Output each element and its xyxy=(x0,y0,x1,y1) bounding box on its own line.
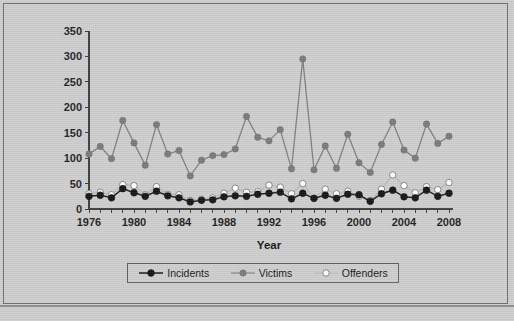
y-tick-label: 300 xyxy=(64,50,82,62)
y-tick-label: 350 xyxy=(64,25,82,37)
x-tick-label: 2000 xyxy=(347,216,371,228)
data-point-offenders xyxy=(266,182,272,188)
y-tick-label: 150 xyxy=(64,127,82,139)
x-tick-label: 1996 xyxy=(302,216,326,228)
data-point-victims xyxy=(412,155,418,161)
data-point-victims xyxy=(401,147,407,153)
legend-item-victims[interactable]: Victims xyxy=(230,267,293,279)
x-tick-label: 2004 xyxy=(392,216,417,228)
data-point-victims xyxy=(221,151,227,157)
data-point-incidents xyxy=(176,194,183,201)
y-tick-label: 250 xyxy=(64,76,82,88)
data-point-victims xyxy=(176,147,182,153)
y-tick-label: 0 xyxy=(76,203,82,215)
data-point-incidents xyxy=(243,193,250,200)
data-point-incidents xyxy=(209,196,216,203)
data-point-victims xyxy=(322,143,328,149)
data-point-victims xyxy=(142,162,148,168)
data-point-victims xyxy=(232,146,238,152)
y-tick-label: 200 xyxy=(64,101,82,113)
data-point-offenders xyxy=(232,185,238,191)
data-point-incidents xyxy=(142,193,149,200)
figure-root: 050100150200250300350 197619801984198819… xyxy=(0,0,514,321)
data-point-victims xyxy=(97,143,103,149)
data-point-victims xyxy=(446,133,452,139)
legend-marker-offenders xyxy=(313,267,339,279)
data-point-incidents xyxy=(412,194,419,201)
data-point-incidents xyxy=(254,191,261,198)
data-point-incidents xyxy=(322,192,329,199)
data-point-incidents xyxy=(108,194,115,201)
data-point-incidents xyxy=(378,190,385,197)
data-point-victims xyxy=(300,56,306,62)
data-point-victims xyxy=(266,138,272,144)
data-point-victims xyxy=(86,151,92,157)
data-point-offenders xyxy=(322,186,328,192)
data-point-victims xyxy=(255,134,261,140)
data-point-victims xyxy=(277,126,283,132)
data-point-incidents xyxy=(311,195,318,202)
x-tick-label: 1992 xyxy=(257,216,281,228)
data-point-victims xyxy=(198,157,204,163)
data-point-incidents xyxy=(299,190,306,197)
data-point-incidents xyxy=(187,198,194,205)
data-point-incidents xyxy=(131,189,138,196)
x-tick-label: 1984 xyxy=(167,216,192,228)
y-tick-label: 50 xyxy=(70,178,82,190)
data-point-incidents xyxy=(266,190,273,197)
data-point-offenders xyxy=(131,182,137,188)
data-point-incidents xyxy=(198,197,205,204)
x-tick-label: 1988 xyxy=(212,216,236,228)
data-point-victims xyxy=(131,140,137,146)
data-point-victims xyxy=(153,121,159,127)
series-line-victims xyxy=(89,59,449,176)
data-point-victims xyxy=(311,167,317,173)
x-axis-title: Year xyxy=(257,239,282,251)
data-point-incidents xyxy=(367,198,374,205)
data-point-incidents xyxy=(344,191,351,198)
legend-item-offenders[interactable]: Offenders xyxy=(313,267,388,279)
x-axis: 197619801984198819921996200020042008 xyxy=(77,209,461,228)
data-point-incidents xyxy=(221,193,228,200)
x-tick-label: 1980 xyxy=(122,216,146,228)
data-point-incidents xyxy=(423,187,430,194)
data-point-victims xyxy=(333,165,339,171)
data-point-incidents xyxy=(277,189,284,196)
data-point-victims xyxy=(210,152,216,158)
data-point-incidents xyxy=(389,187,396,194)
data-point-victims xyxy=(187,173,193,179)
data-point-incidents xyxy=(86,193,93,200)
data-point-offenders xyxy=(401,182,407,188)
data-point-victims xyxy=(345,131,351,137)
data-point-incidents xyxy=(153,188,160,195)
data-point-victims xyxy=(288,166,294,172)
series-layer xyxy=(86,56,453,206)
y-tick-label: 100 xyxy=(64,152,82,164)
legend-label-victims: Victims xyxy=(259,267,293,279)
legend-label-offenders: Offenders xyxy=(342,267,388,279)
data-point-incidents xyxy=(164,192,171,199)
data-point-offenders xyxy=(300,180,306,186)
data-point-incidents xyxy=(97,192,104,199)
data-point-incidents xyxy=(288,195,295,202)
legend-item-incidents[interactable]: Incidents xyxy=(138,267,209,279)
data-point-victims xyxy=(356,160,362,166)
data-point-incidents xyxy=(434,193,441,200)
legend-marker-incidents xyxy=(138,267,164,279)
data-point-victims xyxy=(108,155,114,161)
data-point-incidents xyxy=(446,190,453,197)
data-point-victims xyxy=(435,140,441,146)
chart-legend: Incidents Victims Offenders xyxy=(127,263,399,283)
data-point-offenders xyxy=(435,186,441,192)
legend-marker-victims xyxy=(230,267,256,279)
data-point-victims xyxy=(243,113,249,119)
data-point-victims xyxy=(423,121,429,127)
data-point-victims xyxy=(378,141,384,147)
data-point-offenders xyxy=(390,172,396,178)
data-point-incidents xyxy=(356,191,363,198)
x-tick-label: 1976 xyxy=(77,216,101,228)
data-point-incidents xyxy=(401,193,408,200)
x-tick-label: 2008 xyxy=(437,216,461,228)
legend-label-incidents: Incidents xyxy=(167,267,209,279)
data-point-incidents xyxy=(333,195,340,202)
